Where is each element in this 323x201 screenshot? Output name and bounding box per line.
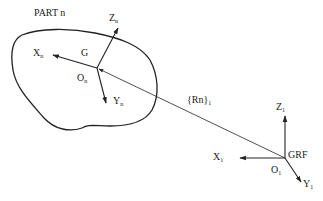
part-origin-label: On — [77, 73, 87, 84]
grf-y-axis-label: Y1 — [303, 179, 313, 190]
part-y-axis-arrow — [97, 68, 106, 103]
grf-x-axis-label: X1 — [213, 152, 223, 163]
position-vector-label: {Rn}1 — [187, 95, 211, 106]
part-x-axis-arrow — [53, 55, 97, 68]
grf-origin-label: O1 — [271, 165, 281, 176]
part-y-axis-label: Yn — [113, 96, 123, 107]
position-vector-arrow — [99, 69, 285, 158]
grf-y-axis-arrow — [285, 158, 301, 182]
part-title: PART n — [34, 8, 65, 18]
grf-z-axis-label: Z1 — [276, 102, 285, 113]
grf-title: GRF — [288, 150, 307, 160]
part-z-axis-label: Zn — [109, 13, 118, 24]
part-x-axis-label: Xn — [33, 48, 43, 59]
part-center-label: G — [81, 48, 88, 58]
